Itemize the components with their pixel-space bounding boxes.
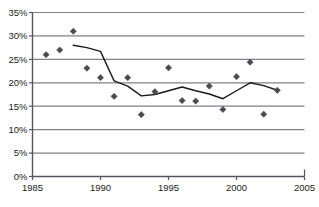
axes-group [33,13,305,177]
y-tick-label: 5% [14,147,28,158]
y-tick-label: 35% [8,7,28,18]
data-point-marker [70,28,76,34]
trend-line [73,45,277,98]
data-point-marker [125,75,131,81]
data-point-marker [220,106,226,112]
data-point-marker [97,75,103,81]
x-tick-label: 2005 [294,182,315,193]
data-point-marker [261,111,267,117]
y-axis-tick-labels: 0%5%10%15%20%25%30%35% [8,7,28,182]
data-point-marker [247,59,253,65]
data-point-marker [165,65,171,71]
chart-container: 0%5%10%15%20%25%30%35% 19851990199520002… [0,0,319,207]
y-tick-label: 25% [8,54,28,65]
y-tick-label: 10% [8,124,28,135]
data-point-marker [84,65,90,71]
data-point-marker [179,97,185,103]
data-point-marker [233,74,239,80]
x-axis-tick-labels: 19851990199520002005 [22,182,315,193]
x-tick-label: 1995 [158,182,179,193]
scatter-plot: 0%5%10%15%20%25%30%35% 19851990199520002… [0,0,319,207]
data-point-marker [57,47,63,53]
data-point-marker [274,87,280,93]
x-tick-label: 1985 [22,182,43,193]
y-tick-label: 30% [8,30,28,41]
x-tick-label: 1990 [90,182,111,193]
data-point-marker [206,83,212,89]
y-tick-label: 15% [8,101,28,112]
x-tick-label: 2000 [226,182,247,193]
data-point-marker [138,112,144,118]
trend-line-path [73,45,277,98]
y-tick-label: 0% [14,171,28,182]
data-point-marker [193,98,199,104]
y-tick-label: 20% [8,77,28,88]
data-point-markers [43,28,280,118]
data-point-marker [43,52,49,58]
data-point-marker [111,93,117,99]
